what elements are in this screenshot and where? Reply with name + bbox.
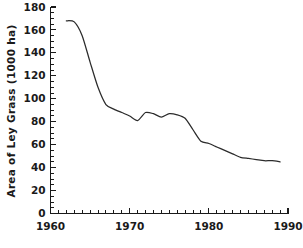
x-tick-label: 1980 <box>194 220 223 232</box>
y-tick-label: 140 <box>24 46 46 58</box>
y-axis-title: Area of Ley Grass (1000 ha) <box>5 24 17 197</box>
y-tick-label: 100 <box>24 92 46 104</box>
x-tick-label: 1990 <box>273 220 302 232</box>
y-tick-label: 0 <box>38 207 45 219</box>
y-axis-title-label: Area of Ley Grass (1000 ha) <box>5 24 17 197</box>
x-tick-label: 1960 <box>36 220 65 232</box>
y-tick-label: 40 <box>31 161 46 173</box>
x-tick-label: 1970 <box>115 220 144 232</box>
y-tick-label: 160 <box>24 24 46 36</box>
line-chart: Area of Ley Grass (1000 ha) 020406080100… <box>0 0 303 248</box>
y-tick-label: 80 <box>31 115 46 127</box>
y-tick-label: 180 <box>24 1 46 13</box>
y-tick-label: 120 <box>24 69 46 81</box>
y-tick-label: 20 <box>31 184 46 196</box>
y-tick-label: 60 <box>31 138 46 150</box>
chart-figure: Area of Ley Grass (1000 ha) 020406080100… <box>0 0 303 248</box>
